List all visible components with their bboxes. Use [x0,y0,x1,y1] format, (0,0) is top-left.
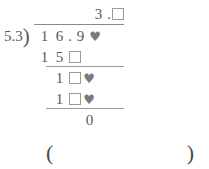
remainder-row: 0 [37,111,97,129]
dividend-digit-1: 1 [37,27,52,45]
division-bracket-icon: ) [23,27,30,45]
subtract-row-2-digit-1: 1 [52,90,67,108]
bring-down-row-1: 1♥ [37,69,96,87]
work-rule-1 [46,66,124,67]
divisor-value: 5.3 [4,28,23,44]
bring-down-row-1-box-cell [67,69,82,87]
dividend-digit-2: 6 [52,27,67,45]
subtract-row-2-box-cell [67,90,82,108]
quotient-digit-1: 3 [91,5,106,23]
answer-blank[interactable]: ( ) [40,140,200,166]
subtract-row-1-digit-1: 1 [37,48,52,66]
subtract-row-1: 15 [37,48,97,66]
bring-down-row-1-digit-1: 1 [52,69,67,87]
remainder-value: 0 [82,111,97,129]
subtract-row-2: 1♥ [37,90,96,108]
bring-down-row-1-answer-box[interactable] [69,72,81,84]
subtract-row-1-digit-2: 5 [52,48,67,66]
subtract-row-1-box-cell [67,48,82,66]
answer-open-paren: ( [46,140,53,166]
dividend-heart-icon: ♥ [88,28,102,46]
quotient-row: 3. [36,5,124,23]
divisor-group: 5.3) [4,27,30,45]
quotient-answer-box[interactable] [112,8,124,20]
answer-close-paren: ) [187,140,194,166]
subtract-row-2-heart-icon: ♥ [82,91,96,109]
subtract-row-1-answer-box[interactable] [69,51,81,63]
division-vinculum [34,24,124,25]
dividend-row: 16.9♥ [37,27,102,46]
long-division-worksheet: 3. 5.3) 16.9♥ 15 1♥ 1♥ 0 ( ) [0,0,209,169]
work-rule-2 [46,108,124,109]
subtract-row-2-answer-box[interactable] [69,93,81,105]
dividend-digit-3: 9 [73,27,88,45]
bring-down-row-1-heart-icon: ♥ [82,70,96,88]
answer-input[interactable] [62,140,178,166]
